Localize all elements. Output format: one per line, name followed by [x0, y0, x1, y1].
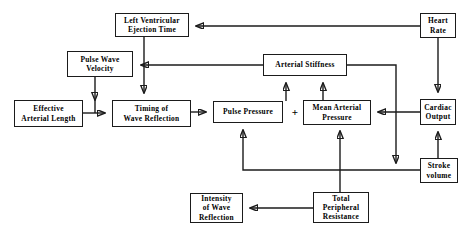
- node-intensity-of-wave-reflection[interactable]: Intensity of Wave Reflection: [190, 193, 243, 223]
- node-pulse-wave-velocity[interactable]: Pulse Wave Velocity: [67, 51, 133, 77]
- node-left-ventricular-ejection-time[interactable]: Left Ventricular Ejection Time: [115, 13, 189, 37]
- node-stroke-volume[interactable]: Stroke volume: [420, 158, 458, 183]
- node-cardiac-output[interactable]: Cardiac Output: [420, 99, 456, 125]
- node-total-peripheral-resistance[interactable]: Total Peripheral Resistance: [313, 192, 369, 223]
- edge-sv-to-pp: [243, 130, 420, 170]
- node-pulse-pressure[interactable]: Pulse Pressure: [213, 101, 283, 123]
- plus-operator: +: [288, 104, 302, 120]
- node-arterial-stiffness[interactable]: Arterial Stiffness: [263, 54, 347, 76]
- node-mean-arterial-pressure[interactable]: Mean Arterial Pressure: [303, 100, 371, 125]
- node-timing-of-wave-reflection[interactable]: Timing of Wave Reflection: [112, 100, 191, 127]
- node-effective-arterial-length[interactable]: Effective Arterial Length: [14, 100, 83, 127]
- node-heart-rate[interactable]: Heart Rate: [420, 13, 456, 38]
- diagram-canvas: Left Ventricular Ejection Time Heart Rat…: [0, 0, 472, 236]
